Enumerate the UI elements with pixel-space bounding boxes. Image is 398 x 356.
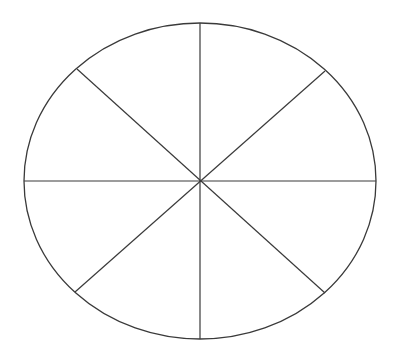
segmented-ellipse-diagram [0,0,398,356]
dividing-lines [24,23,376,339]
